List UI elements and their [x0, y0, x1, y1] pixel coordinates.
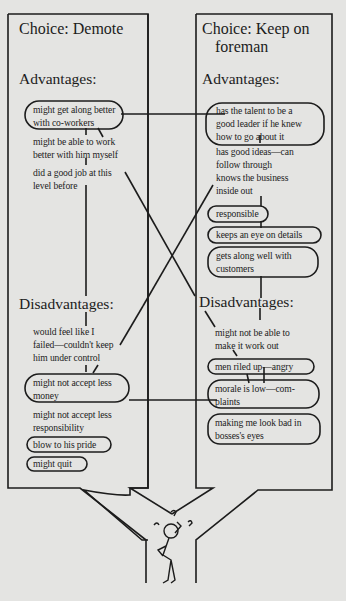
right-adv-6: gets along well withcustomers	[216, 249, 292, 275]
right-dis-2: men riled up—angry	[215, 360, 293, 373]
left-dis-2: might not accept lessmoney	[33, 376, 112, 402]
right-adv-5: keeps an eye on details	[216, 228, 302, 241]
right-advantages-heading: Advantages:	[202, 70, 279, 88]
left-advantages-heading: Advantages:	[19, 70, 96, 88]
left-dis-5: might quit	[33, 457, 72, 470]
left-disadvantages-heading: Disadvantages:	[19, 295, 114, 313]
left-adv-1: might get along betterwith co-workers	[33, 103, 115, 129]
left-dis-1: would feel like Ifailed—couldn't keephim…	[33, 325, 113, 364]
right-disadvantages-heading: Disadvantages:	[199, 293, 294, 311]
right-adv-2: has good ideas—canfollow through	[216, 145, 294, 171]
right-dis-1: might not be able tomake it work out	[215, 326, 290, 352]
left-dis-3: might not accept lessresponsibility	[33, 408, 112, 434]
left-choice-box	[8, 14, 148, 540]
right-adv-4: responsible	[216, 207, 259, 220]
confused-stick-figure-icon	[154, 511, 192, 584]
right-dis-4: making me look bad inbosses's eyes	[215, 416, 301, 442]
left-adv-3: did a good job at thislevel before	[33, 166, 112, 192]
right-adv-3: knows the businessinside out	[216, 171, 288, 197]
right-choice-title: Choice: Keep onforeman	[202, 20, 310, 56]
left-dis-4: blow to his pride	[33, 438, 96, 451]
right-adv-1: has the talent to be agood leader if he …	[216, 104, 302, 143]
left-adv-2: might be able to workbetter with him mys…	[33, 135, 118, 161]
right-dis-3: morale is low—com-plaints	[215, 382, 295, 408]
left-choice-title: Choice: Demote	[19, 20, 123, 38]
